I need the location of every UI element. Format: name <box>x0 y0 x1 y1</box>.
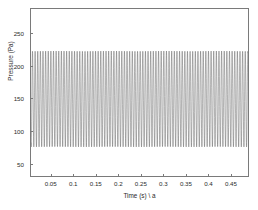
y-tick-label: 150 <box>14 95 24 102</box>
y-tick-label: 250 <box>14 29 24 36</box>
y-tick-mark <box>30 164 33 165</box>
y-tick-mark <box>30 66 33 67</box>
x-tick-label: 0.35 <box>180 180 192 187</box>
y-tick-mark <box>30 98 33 99</box>
x-tick-label: 0.25 <box>135 180 147 187</box>
x-tick-mark <box>51 174 52 177</box>
y-tick-mark <box>30 33 33 34</box>
x-tick-label: 0.05 <box>45 180 57 187</box>
x-tick-mark <box>231 174 232 177</box>
pressure-waveform-curve <box>31 9 248 176</box>
x-tick-label: 0.2 <box>114 180 123 187</box>
y-tick-label: 100 <box>14 128 24 135</box>
x-tick-label: 0.15 <box>90 180 102 187</box>
pressure-time-chart-figure: 0.050.10.150.20.250.30.350.40.45 5010015… <box>0 0 258 210</box>
y-axis-title: Pressure (Pa) <box>7 21 15 101</box>
x-tick-label: 0.45 <box>225 180 237 187</box>
x-tick-label: 0.1 <box>69 180 78 187</box>
x-tick-mark <box>186 174 187 177</box>
plot-area <box>30 8 249 177</box>
y-tick-label: 50 <box>17 160 24 167</box>
x-tick-mark <box>163 174 164 177</box>
y-tick-label: 200 <box>14 62 24 69</box>
y-tick-mark <box>30 131 33 132</box>
x-tick-mark <box>208 174 209 177</box>
x-tick-mark <box>141 174 142 177</box>
x-tick-label: 0.4 <box>204 180 213 187</box>
x-tick-mark <box>96 174 97 177</box>
x-tick-label: 0.3 <box>159 180 168 187</box>
x-axis-title: Time (s) \ a <box>30 192 249 200</box>
x-tick-mark <box>73 174 74 177</box>
x-tick-mark <box>118 174 119 177</box>
